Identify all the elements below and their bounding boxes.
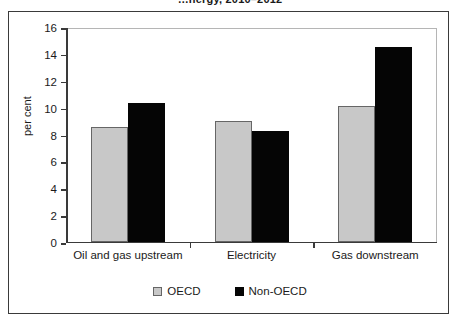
- bar-non-oecd: [128, 103, 165, 241]
- y-axis-line: [66, 28, 68, 243]
- x-axis-line: [66, 242, 437, 244]
- legend-swatch-black-square-icon: [235, 287, 244, 296]
- bar-oecd: [338, 106, 375, 242]
- bar-non-oecd: [252, 131, 289, 241]
- x-axis-tick-mark: [190, 243, 192, 248]
- x-axis-category-label: Gas downstream: [332, 249, 419, 261]
- y-axis-tick-label: 4: [51, 183, 57, 195]
- legend-item-oecd: OECD: [153, 285, 200, 297]
- y-axis-tick-label: 0: [51, 237, 57, 249]
- legend-swatch-grey-square-icon: [153, 287, 162, 296]
- bar-non-oecd: [375, 47, 412, 242]
- y-axis-tick-label: 12: [44, 76, 57, 88]
- y-axis-tick-mark: [61, 136, 66, 138]
- y-axis-title: per cent: [21, 96, 33, 136]
- y-axis-tick-label: 14: [44, 49, 57, 61]
- legend-label-non-oecd: Non-OECD: [249, 285, 307, 297]
- x-axis-category-label: Electricity: [227, 249, 276, 261]
- y-axis-tick-label: 6: [51, 156, 57, 168]
- bar-oecd: [91, 127, 128, 241]
- legend-label-oecd: OECD: [167, 285, 200, 297]
- legend-item-non-oecd: Non-OECD: [235, 285, 307, 297]
- x-axis-tick-mark: [313, 243, 315, 248]
- figure-container: …nergy, 2010–2012 per cent 0246810121416…: [0, 0, 460, 314]
- y-axis-tick-mark: [61, 162, 66, 164]
- y-axis-tick-label: 8: [51, 130, 57, 142]
- y-axis-tick-label: 10: [44, 103, 57, 115]
- figure-title: …nergy, 2010–2012: [0, 0, 460, 5]
- bar-oecd: [215, 121, 252, 242]
- y-axis-tick-mark: [61, 189, 66, 191]
- plot-area: 0246810121416: [66, 28, 437, 243]
- chart-legend: OECD Non-OECD: [0, 285, 460, 297]
- y-axis-tick-mark: [61, 55, 66, 57]
- y-axis-tick-label: 2: [51, 210, 57, 222]
- y-axis-tick-mark: [61, 109, 66, 111]
- y-axis-tick-mark: [61, 243, 66, 245]
- y-axis-tick-mark: [61, 216, 66, 218]
- x-axis-category-label: Oil and gas upstream: [73, 249, 182, 261]
- y-axis-tick-mark: [61, 82, 66, 84]
- y-axis-tick-label: 16: [44, 22, 57, 34]
- y-axis-tick-mark: [61, 28, 66, 30]
